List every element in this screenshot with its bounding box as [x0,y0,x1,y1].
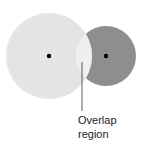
overlap-label-line2: region [78,127,117,141]
overlap-label-line1: Overlap [78,113,117,127]
large-circle-center-dot [47,54,51,58]
overlap-label: Overlap region [78,113,117,141]
overlap-diagram [0,0,141,148]
small-circle-center-dot [104,54,108,58]
